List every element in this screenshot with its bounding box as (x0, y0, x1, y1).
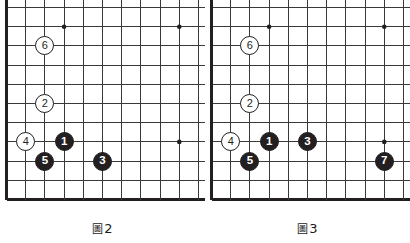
white-stone-4: 4 (16, 132, 35, 151)
caption-figure-2: 圖2 (0, 220, 205, 236)
black-stone-1: 1 (260, 132, 279, 151)
caption-char-figure-2: 圖 (92, 223, 103, 236)
black-stone-7: 7 (375, 152, 394, 171)
black-stone-5: 5 (240, 152, 259, 171)
stone-layer-figure-2: 123456 (0, 0, 205, 215)
black-stone-3: 3 (93, 152, 112, 171)
diagram-figure-2: 123456 圖2 (0, 0, 205, 243)
go-diagram-page: 123456 圖2 1234567 圖3 (0, 0, 410, 243)
white-stone-6: 6 (35, 36, 54, 55)
caption-char-figure-3: 圖 (297, 223, 308, 236)
black-stone-1: 1 (55, 132, 74, 151)
stone-layer-figure-3: 1234567 (205, 0, 410, 215)
white-stone-2: 2 (35, 94, 54, 113)
diagram-figure-3: 1234567 圖3 (205, 0, 410, 243)
caption-number-figure-3: 3 (308, 221, 317, 236)
black-stone-5: 5 (35, 152, 54, 171)
white-stone-4: 4 (221, 132, 240, 151)
caption-number-figure-2: 2 (103, 221, 112, 236)
white-stone-6: 6 (240, 36, 259, 55)
caption-figure-3: 圖3 (205, 220, 410, 236)
white-stone-2: 2 (240, 94, 259, 113)
black-stone-3: 3 (298, 132, 317, 151)
